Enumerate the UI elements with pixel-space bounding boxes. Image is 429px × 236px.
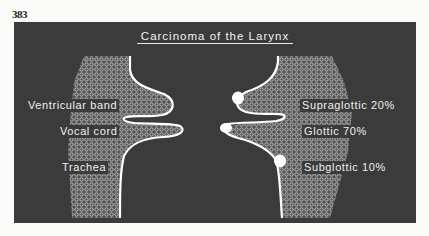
label-ventricular-band: Ventricular band bbox=[26, 99, 119, 112]
label-trachea: Trachea bbox=[60, 161, 108, 174]
supraglottic-tumor-marker bbox=[232, 92, 244, 105]
page-number: 383 bbox=[12, 8, 27, 20]
label-supraglottic: Supraglottic 20% bbox=[300, 99, 397, 112]
label-subglottic: Subglottic 10% bbox=[302, 161, 388, 174]
diagram-title: Carcinoma of the Larynx bbox=[14, 30, 416, 42]
diagram-title-text: Carcinoma of the Larynx bbox=[137, 30, 293, 44]
larynx-cross-section bbox=[14, 22, 416, 223]
larynx-diagram-panel: Carcinoma of the Larynx Ventricular band… bbox=[14, 22, 416, 223]
label-vocal-cord: Vocal cord bbox=[58, 125, 119, 138]
glottic-tumor-marker bbox=[220, 123, 232, 133]
subglottic-tumor-marker bbox=[274, 155, 286, 168]
label-glottic: Glottic 70% bbox=[302, 125, 369, 138]
